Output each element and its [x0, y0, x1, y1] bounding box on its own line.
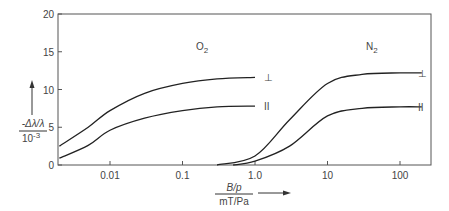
o2-label: O2 [196, 41, 209, 55]
curve [233, 107, 422, 165]
parallel-icon: II [264, 101, 270, 112]
perpendicular-icon: ⊥ [264, 72, 273, 83]
y-label-den: 10-3 [22, 131, 41, 144]
x-tick-label: 10 [322, 170, 334, 181]
plot-frame [58, 14, 431, 165]
x-tick-label: 100 [392, 170, 409, 181]
chart: 051015200.010.11.010100-Δλ/λ10-3B/pmT/Pa… [0, 0, 449, 211]
parallel-icon: II [418, 102, 424, 113]
x-label-den: mT/Pa [219, 196, 249, 207]
curve [59, 77, 255, 146]
curve [59, 106, 255, 158]
perpendicular-icon: ⊥ [418, 68, 427, 79]
y-tick-label: 10 [43, 85, 55, 96]
annotations: O2N2⊥⊥IIII [196, 41, 427, 113]
y-label-num: -Δλ/λ [22, 118, 45, 129]
arrow-head-icon [30, 80, 35, 88]
y-tick-label: 0 [48, 160, 54, 171]
x-tick-label: 0.1 [176, 170, 190, 181]
n2-label: N2 [366, 41, 378, 55]
x-tick-label: 0.01 [100, 170, 120, 181]
arrow-head-icon [283, 191, 291, 196]
y-tick-label: 15 [43, 47, 55, 58]
y-tick-label: 5 [48, 122, 54, 133]
x-label-num: B/p [226, 182, 241, 193]
curves [59, 73, 422, 165]
curve [217, 73, 422, 165]
x-tick-label: 1.0 [248, 170, 262, 181]
y-tick-label: 20 [43, 9, 55, 20]
